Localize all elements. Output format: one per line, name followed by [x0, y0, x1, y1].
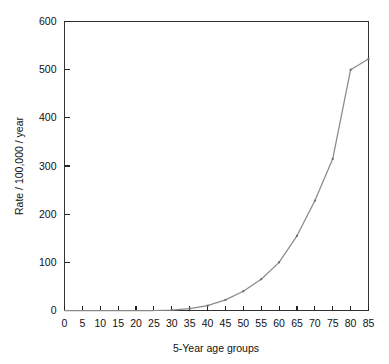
- x-axis-title: 5-Year age groups: [173, 342, 259, 354]
- y-axis-title: Rate / 100,000 / year: [13, 116, 25, 215]
- x-tick-label-75: 75: [327, 317, 339, 329]
- x-tick-label-60: 60: [273, 317, 285, 329]
- data-point-marker: [332, 158, 334, 160]
- data-point-marker: [350, 69, 352, 71]
- plot-frame: [65, 22, 369, 311]
- x-axis-tick-labels: 0510152025303540455055606570758085: [62, 317, 375, 329]
- data-point-marker: [224, 299, 226, 301]
- x-tick-label-25: 25: [148, 317, 160, 329]
- data-point-marker: [207, 305, 209, 307]
- x-tick-label-30: 30: [166, 317, 178, 329]
- y-tick-label-500: 500: [39, 63, 57, 75]
- x-tick-label-35: 35: [184, 317, 196, 329]
- line-chart: 0100200300400500600 05101520253035404550…: [0, 0, 389, 364]
- plot-border: [65, 22, 369, 311]
- data-point-marker: [260, 278, 262, 280]
- x-tick-label-15: 15: [112, 317, 124, 329]
- x-tick-label-0: 0: [62, 317, 68, 329]
- data-point-marker: [314, 200, 316, 202]
- y-tick-label-300: 300: [39, 160, 57, 172]
- y-axis-ticks: [65, 22, 70, 311]
- x-tick-label-5: 5: [79, 317, 85, 329]
- y-tick-label-600: 600: [39, 15, 57, 27]
- data-point-marker: [189, 308, 191, 310]
- data-point-marker: [296, 235, 298, 237]
- data-point-marker: [368, 58, 370, 60]
- data-point-marker: [171, 309, 173, 311]
- x-tick-label-40: 40: [202, 317, 214, 329]
- chart-container: 0100200300400500600 05101520253035404550…: [0, 0, 389, 364]
- x-axis-ticks: [65, 306, 369, 311]
- y-tick-label-400: 400: [39, 111, 57, 123]
- data-point-marker: [242, 290, 244, 292]
- x-tick-label-45: 45: [220, 317, 232, 329]
- x-tick-label-20: 20: [130, 317, 142, 329]
- x-tick-label-80: 80: [345, 317, 357, 329]
- x-tick-label-55: 55: [255, 317, 267, 329]
- data-point-marker: [278, 261, 280, 263]
- y-tick-label-200: 200: [39, 208, 57, 220]
- x-tick-label-65: 65: [291, 317, 303, 329]
- series-polyline: [65, 59, 369, 310]
- x-tick-label-85: 85: [363, 317, 375, 329]
- data-series-rate: [65, 58, 370, 311]
- x-tick-label-50: 50: [237, 317, 249, 329]
- y-axis-tick-labels: 0100200300400500600: [39, 15, 57, 316]
- x-tick-label-70: 70: [309, 317, 321, 329]
- y-tick-label-0: 0: [51, 304, 57, 316]
- x-tick-label-10: 10: [94, 317, 106, 329]
- y-tick-label-100: 100: [39, 256, 57, 268]
